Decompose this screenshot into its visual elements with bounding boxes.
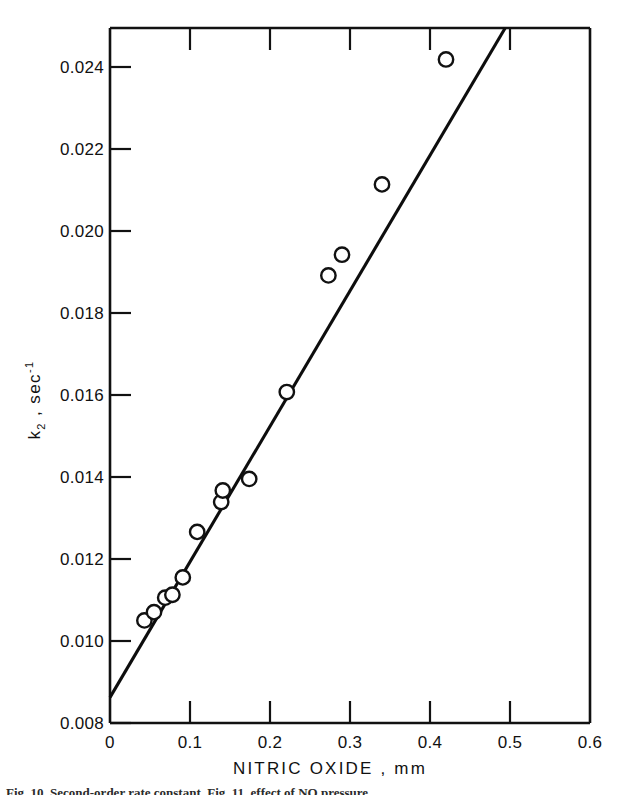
data-point-0-12 — [375, 177, 389, 191]
y-axis-title-subscript: 2 — [35, 422, 47, 430]
scatter-chart: 0.008 0.010 0.012 0.014 0.016 0.018 0.02… — [0, 0, 618, 795]
data-point-0-7 — [216, 483, 230, 497]
y-tick-label-2: 0.012 — [60, 550, 104, 569]
y-tick-label-8: 0.024 — [60, 58, 104, 77]
data-point-0-5 — [190, 525, 204, 539]
y-tick-label-4: 0.016 — [60, 386, 104, 405]
x-tick-label-0: 0 — [105, 733, 115, 752]
figure-caption: Fig. 10. Second-order rate constant. Fig… — [0, 786, 618, 795]
y-axis-title-separator: , sec — [25, 373, 44, 422]
y-tick-label-1: 0.010 — [60, 632, 104, 651]
y-axis-title-base: k — [25, 430, 44, 440]
x-tick-label-2: 0.2 — [258, 733, 283, 752]
data-point-0-11 — [335, 248, 349, 262]
y-tick-label-7: 0.022 — [60, 140, 104, 159]
y-axis-title-superscript: -1 — [23, 360, 35, 373]
data-point-0-4 — [176, 570, 190, 584]
x-tick-label-1: 0.1 — [178, 733, 203, 752]
x-tick-label-4: 0.4 — [418, 733, 443, 752]
y-tick-label-0: 0.008 — [60, 714, 104, 733]
y-tick-label-5: 0.018 — [60, 304, 104, 323]
data-point-0-3 — [165, 588, 179, 602]
data-point-0-13 — [439, 52, 453, 66]
figure-container: 0.008 0.010 0.012 0.014 0.016 0.018 0.02… — [0, 0, 618, 795]
data-point-0-8 — [242, 472, 256, 486]
x-tick-label-3: 0.3 — [338, 733, 363, 752]
x-axis-title: NITRIC OXIDE , mm — [233, 759, 427, 778]
x-tick-label-6: 0.6 — [578, 733, 603, 752]
y-tick-label-6: 0.020 — [60, 222, 104, 241]
data-point-0-9 — [280, 385, 294, 399]
y-tick-label-3: 0.014 — [60, 468, 104, 487]
x-tick-label-5: 0.5 — [498, 733, 523, 752]
data-point-0-10 — [321, 268, 335, 282]
data-point-0-1 — [147, 605, 161, 619]
